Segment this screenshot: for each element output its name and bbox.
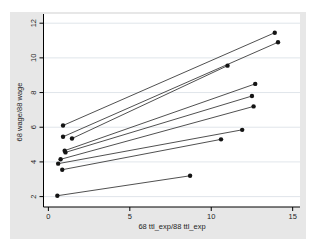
data-point-marker — [63, 150, 67, 154]
y-tick-label: 2 — [29, 195, 38, 199]
data-point-marker — [55, 194, 59, 198]
data-point-marker — [276, 40, 280, 44]
y-tick-label: 10 — [29, 54, 38, 62]
data-point-marker — [240, 128, 244, 132]
data-point-marker — [60, 168, 64, 172]
data-point-marker — [61, 135, 65, 139]
data-point-marker — [188, 174, 192, 178]
data-point-marker — [219, 137, 223, 141]
y-tick-label: 6 — [29, 125, 38, 129]
data-point-marker — [58, 157, 62, 161]
x-tick-label: 15 — [288, 212, 296, 221]
data-point-marker — [56, 161, 60, 165]
data-point-marker — [70, 136, 74, 140]
x-axis-title: 68 ttl_exp/88 ttl_exp — [138, 222, 205, 231]
data-point-marker — [253, 82, 257, 86]
page: 24681012051015 68 wage/88 wage 68 ttl_ex… — [0, 0, 318, 250]
data-point-marker — [61, 123, 65, 127]
plot-background — [44, 14, 301, 207]
plot-svg: 24681012051015 — [10, 12, 306, 239]
y-tick-label: 12 — [29, 19, 38, 27]
x-tick-label: 0 — [46, 212, 50, 221]
chart-figure: 24681012051015 68 wage/88 wage 68 ttl_ex… — [10, 12, 306, 239]
x-tick-label: 5 — [128, 212, 132, 221]
data-point-marker — [273, 31, 277, 35]
y-tick-label: 8 — [29, 90, 38, 94]
y-axis-title: 68 wage/88 wage — [15, 83, 24, 142]
data-point-marker — [251, 104, 255, 108]
x-tick-label: 10 — [207, 212, 215, 221]
data-point-marker — [250, 94, 254, 98]
data-point-marker — [225, 63, 229, 67]
y-tick-label: 4 — [29, 160, 38, 164]
